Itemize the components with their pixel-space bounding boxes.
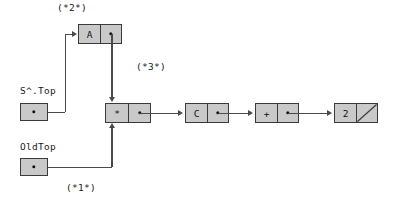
node-2: 2 (334, 103, 378, 123)
annotation-step3: (*3*) (136, 61, 166, 72)
diagram-canvas: (*2*) (*3*) (*1*) S^.Top OldTop A * (0, 0, 402, 204)
arrowhead-into-node-plus (248, 110, 253, 116)
node-c-value: C (186, 104, 207, 122)
annotation-step1: (*1*) (66, 182, 96, 193)
connector-plus-to-2 (288, 113, 328, 114)
connector-a-to-star (111, 34, 112, 99)
node-star-value: * (106, 104, 128, 122)
variable-label-oldtop: OldTop (20, 141, 56, 152)
arrowhead-into-node-star-bottom (109, 123, 115, 128)
pointer-box-oldtop (20, 158, 48, 176)
connector-c-to-plus (218, 113, 249, 114)
pointer-box-s-top (20, 103, 48, 121)
connector-s-top-stub (48, 112, 65, 113)
arrowhead-into-node-c (178, 110, 183, 116)
node-a: A (78, 24, 122, 44)
node-2-nil-pointer (356, 104, 377, 122)
node-2-value: 2 (335, 104, 356, 122)
pointer-dot-oldtop (32, 165, 35, 168)
arrowhead-into-node-star-top (109, 97, 115, 102)
node-a-value: A (79, 25, 100, 43)
arrowhead-into-node-a (72, 31, 77, 37)
pointer-dot-s-top (32, 110, 35, 113)
node-plus-value: + (256, 104, 277, 122)
arrowhead-into-node-2 (327, 110, 332, 116)
connector-s-top-vertical (65, 34, 66, 112)
variable-label-s-top: S^.Top (20, 85, 56, 96)
connector-star-to-c (139, 113, 179, 114)
nil-slash-icon (357, 104, 377, 122)
annotation-step2: (*2*) (57, 2, 87, 13)
connector-oldtop-horizontal (48, 167, 112, 168)
connector-oldtop-vertical (111, 128, 112, 167)
